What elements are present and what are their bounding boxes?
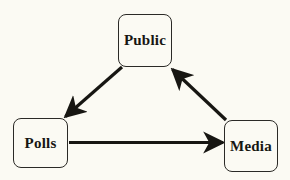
diagram-canvas: Public Polls Media [0,0,290,180]
edge-public-to-polls [66,67,123,117]
edge-public-to-polls-line [66,67,123,117]
node-public-label: Public [124,33,166,48]
edge-media-to-public-line [173,70,227,121]
node-public[interactable]: Public [118,14,172,67]
node-polls-label: Polls [25,136,57,151]
edge-media-to-public [173,70,227,121]
node-polls[interactable]: Polls [13,118,68,168]
node-media[interactable]: Media [224,120,278,172]
node-media-label: Media [230,139,272,154]
